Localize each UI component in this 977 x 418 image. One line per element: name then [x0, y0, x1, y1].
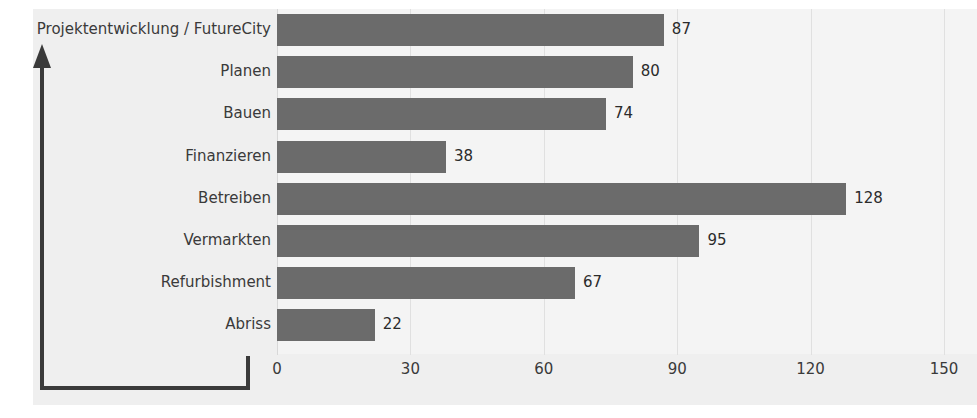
- category-label: Vermarkten: [183, 233, 271, 248]
- bar-value-label: 87: [672, 22, 691, 37]
- bar: [277, 14, 664, 46]
- category-label: Planen: [220, 64, 271, 79]
- bar: [277, 309, 375, 341]
- bar: [277, 225, 699, 257]
- bar-value-label: 38: [454, 149, 473, 164]
- tick-label-30: 30: [401, 362, 420, 377]
- bar: [277, 141, 446, 173]
- bar-value-label: 74: [614, 106, 633, 121]
- category-label: Projektentwicklung / FutureCity: [37, 22, 271, 37]
- tick-label-60: 60: [534, 362, 553, 377]
- tick-label-150: 150: [930, 362, 959, 377]
- bar-chart-figure: Projektentwicklung / FutureCityPlanenBau…: [0, 0, 977, 418]
- gridline-150: [944, 9, 945, 355]
- bar: [277, 267, 575, 299]
- category-label: Bauen: [223, 106, 271, 121]
- category-label: Finanzieren: [185, 149, 271, 164]
- bar-value-label: 22: [383, 317, 402, 332]
- bar: [277, 98, 606, 130]
- category-axis-labels: Projektentwicklung / FutureCityPlanenBau…: [0, 0, 271, 418]
- bar-value-label: 67: [583, 275, 602, 290]
- bar: [277, 56, 633, 88]
- category-label: Abriss: [225, 317, 271, 332]
- bar-value-label: 80: [641, 64, 660, 79]
- tick-label-120: 120: [796, 362, 825, 377]
- bar-value-label: 95: [707, 233, 726, 248]
- tick-label-0: 0: [272, 362, 282, 377]
- bar: [277, 183, 846, 215]
- bar-value-label: 128: [854, 191, 883, 206]
- category-label: Betreiben: [198, 191, 271, 206]
- tick-label-90: 90: [668, 362, 687, 377]
- category-label: Refurbishment: [161, 275, 271, 290]
